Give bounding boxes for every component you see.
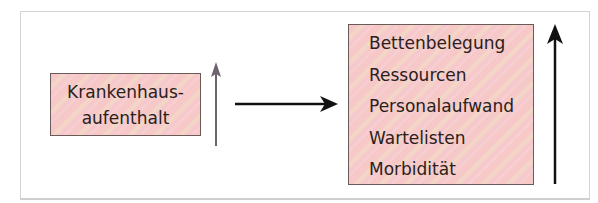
right-arrow-icon: [235, 96, 338, 112]
arrows-layer: [0, 0, 598, 203]
small-up-arrow-icon: [211, 62, 221, 146]
large-up-arrow-icon: [547, 24, 563, 184]
